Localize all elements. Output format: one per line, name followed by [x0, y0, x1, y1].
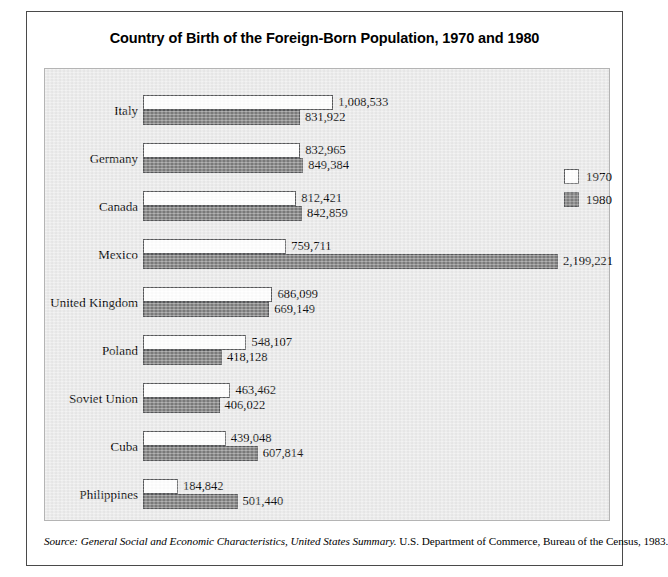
- legend-label: 1970: [586, 169, 612, 184]
- legend-swatch-icon: [564, 169, 579, 184]
- category-label: Italy: [114, 95, 138, 127]
- bar-1980: [143, 494, 238, 509]
- bar-1970: [143, 143, 300, 158]
- bar-1980: [143, 350, 222, 365]
- bar-value-label: 463,462: [230, 383, 276, 398]
- category-label: Germany: [90, 143, 138, 175]
- bar-group: Italy1,008,533831,922: [45, 95, 605, 127]
- bar-value-label: 607,814: [258, 446, 304, 461]
- source-roman: U.S. Department of Commerce, Bureau of t…: [397, 535, 668, 547]
- bar-value-label: 842,859: [302, 206, 348, 221]
- bar-group: Philippines184,842501,440: [45, 479, 605, 511]
- bar-1970: [143, 191, 296, 206]
- category-label: Cuba: [111, 431, 138, 463]
- bar-value-label: 831,922: [300, 110, 346, 125]
- bar-1970: [143, 287, 272, 302]
- bar-value-label: 849,384: [303, 158, 349, 173]
- bar-group: Soviet Union463,462406,022: [45, 383, 605, 415]
- legend-label: 1980: [586, 192, 612, 207]
- bar-1980: [143, 254, 558, 269]
- bar-value-label: 406,022: [220, 398, 266, 413]
- bar-value-label: 418,128: [222, 350, 268, 365]
- bar-value-label: 2,199,221: [558, 254, 613, 269]
- bar-1970: [143, 95, 333, 110]
- bar-group: Canada812,421842,859: [45, 191, 605, 223]
- bar-1970: [143, 431, 226, 446]
- bar-value-label: 548,107: [246, 335, 292, 350]
- bar-value-label: 1,008,533: [333, 95, 388, 110]
- bar-group: United Kingdom686,099669,149: [45, 287, 605, 319]
- bar-value-label: 812,421: [296, 191, 342, 206]
- category-label: Mexico: [98, 239, 138, 271]
- bar-group: Cuba439,048607,814: [45, 431, 605, 463]
- category-label: United Kingdom: [50, 287, 138, 319]
- bar-1970: [143, 239, 286, 254]
- bar-group: Poland548,107418,128: [45, 335, 605, 367]
- bar-1980: [143, 158, 303, 173]
- bar-value-label: 686,099: [272, 287, 318, 302]
- bar-value-label: 501,440: [238, 494, 284, 509]
- bar-1970: [143, 383, 230, 398]
- bar-1980: [143, 206, 302, 221]
- source-note: Source: General Social and Economic Char…: [44, 535, 624, 547]
- category-label: Canada: [99, 191, 138, 223]
- bar-1980: [143, 446, 258, 461]
- bar-1980: [143, 302, 269, 317]
- chart-title: Country of Birth of the Foreign-Born Pop…: [36, 30, 613, 46]
- bar-1980: [143, 110, 300, 125]
- source-italic: Source: General Social and Economic Char…: [44, 535, 397, 547]
- bar-value-label: 669,149: [269, 302, 315, 317]
- bar-value-label: 759,711: [286, 239, 331, 254]
- bar-1970: [143, 335, 246, 350]
- bar-group: Mexico759,7112,199,221: [45, 239, 605, 271]
- bar-value-label: 184,842: [178, 479, 224, 494]
- bar-value-label: 439,048: [226, 431, 272, 446]
- legend-swatch-icon: [564, 192, 579, 207]
- bar-value-label: 832,965: [300, 143, 346, 158]
- category-label: Soviet Union: [69, 383, 138, 415]
- plot-area: Italy1,008,533831,922Germany832,965849,3…: [44, 68, 610, 521]
- bar-1970: [143, 479, 178, 494]
- bar-group: Germany832,965849,384: [45, 143, 605, 175]
- category-label: Poland: [102, 335, 138, 367]
- category-label: Philippines: [79, 479, 138, 511]
- bar-1980: [143, 398, 220, 413]
